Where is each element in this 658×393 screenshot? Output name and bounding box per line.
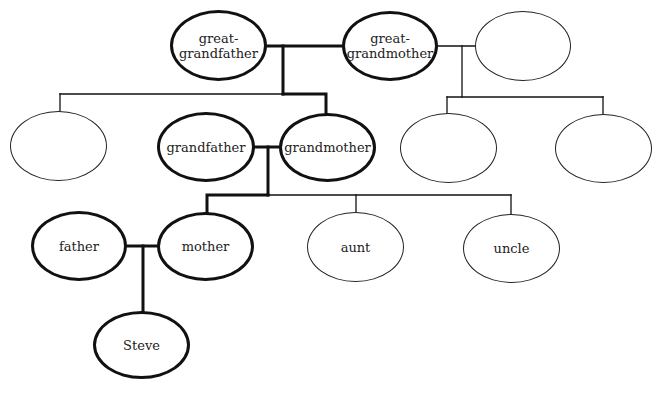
node-label: Steve (123, 338, 160, 353)
family-tree-diagram: great- grandfather great- grandmother gr… (0, 0, 658, 393)
drop-line-grandmother (283, 94, 326, 113)
node-blank-right-1 (400, 113, 497, 183)
node-label: grandfather (166, 140, 245, 155)
node-label: grandmother (284, 140, 371, 155)
node-great-grandmother: great- grandmother (342, 11, 438, 81)
node-steve: Steve (93, 311, 190, 379)
node-mother: mother (157, 212, 254, 281)
node-label: grandmother (347, 46, 434, 61)
node-label: great- (347, 31, 434, 46)
node-father: father (31, 211, 127, 281)
node-label: grandfather (179, 46, 258, 61)
node-blank-right-2 (555, 114, 652, 183)
node-blank-left (10, 111, 107, 181)
node-aunt: aunt (307, 212, 404, 282)
node-uncle: uncle (463, 214, 560, 283)
node-label: mother (182, 239, 230, 254)
node-grandfather: grandfather (157, 112, 255, 182)
node-label: father (59, 239, 99, 254)
node-blank-top-right (475, 11, 571, 81)
node-label: aunt (341, 240, 371, 255)
node-label: uncle (494, 241, 530, 256)
node-grandmother: grandmother (279, 113, 376, 182)
node-great-grandfather: great- grandfather (170, 10, 267, 81)
drop-line-mother (207, 195, 268, 212)
node-label: great- (179, 31, 258, 46)
